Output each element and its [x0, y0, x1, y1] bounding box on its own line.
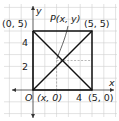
segments [33, 31, 92, 90]
y-tick-2: 2 [22, 61, 28, 72]
coordinate-plane: y x O 4 2 4 (0, 5) (5, 5) (5, 0) (x, 0) … [0, 0, 119, 121]
origin-label: O [25, 92, 33, 103]
point-d-label: (x, 0) [37, 92, 62, 103]
y-tick-4: 4 [22, 37, 28, 48]
y-axis-arrow-down-icon [31, 114, 35, 118]
y-axis-label: y [35, 5, 42, 16]
x-tick-4: 4 [76, 92, 82, 103]
y-axis-arrow-icon [31, 6, 35, 10]
point-a-label: (0, 5) [2, 18, 28, 29]
x-axis-arrow-left-icon [12, 88, 16, 92]
point-p-label: P(x, y) [50, 13, 80, 24]
point-b-label: (5, 5) [84, 18, 110, 29]
x-axis-label: x [108, 77, 115, 88]
point-c-label: (5, 0) [88, 92, 114, 103]
